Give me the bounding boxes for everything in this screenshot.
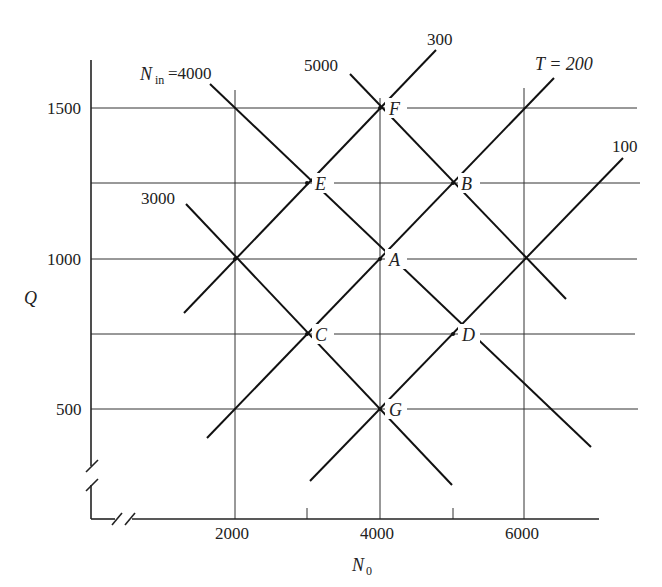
n-in-5000-label: 5000	[304, 56, 338, 75]
x-tick-6000: 6000	[505, 524, 539, 543]
line-t-300	[184, 50, 436, 313]
n-in-label-symbol: N	[139, 64, 153, 84]
t-200-label: T = 200	[535, 54, 593, 74]
point-label-f: F	[388, 99, 401, 119]
point-label-c: C	[315, 325, 328, 345]
y-axis-break-mark	[86, 479, 98, 491]
n-in-lines	[186, 74, 591, 485]
point-b	[451, 181, 455, 185]
x-axis-title-sub: 0	[366, 564, 372, 578]
point-label-b: B	[461, 174, 472, 194]
x-axis-title-main: N	[351, 555, 365, 575]
point-label-a: A	[388, 250, 401, 270]
x-tick-4000: 4000	[360, 524, 394, 543]
t-100-label: 100	[612, 137, 638, 156]
point-c	[305, 332, 309, 336]
point-label-g: G	[389, 400, 402, 420]
point-d	[451, 332, 455, 336]
y-axis-break-mark	[86, 460, 98, 472]
n-in-3000-label: 3000	[141, 189, 175, 208]
point-f	[378, 106, 382, 110]
n-in-label-sub: in	[155, 73, 164, 87]
point-label-e: E	[314, 174, 326, 194]
horizontal-gridlines	[91, 108, 640, 409]
t-300-label: 300	[427, 30, 453, 49]
point-2000-1000	[233, 257, 237, 261]
y-axis-title: Q	[24, 288, 37, 308]
axes	[86, 60, 599, 525]
n-in-label-main: N	[139, 64, 153, 84]
x-tick-2000: 2000	[215, 524, 249, 543]
point-label-d: D	[461, 325, 475, 345]
point-a	[378, 257, 382, 261]
y-tick-1000: 1000	[47, 250, 81, 269]
y-tick-500: 500	[56, 400, 82, 419]
y-tick-1500: 1500	[47, 99, 81, 118]
point-g	[378, 407, 382, 411]
chart: F E B A C D G N in =4000 5000 3000 300 T…	[0, 0, 662, 587]
point-e	[305, 181, 309, 185]
n-in-label-value: =4000	[168, 64, 212, 83]
